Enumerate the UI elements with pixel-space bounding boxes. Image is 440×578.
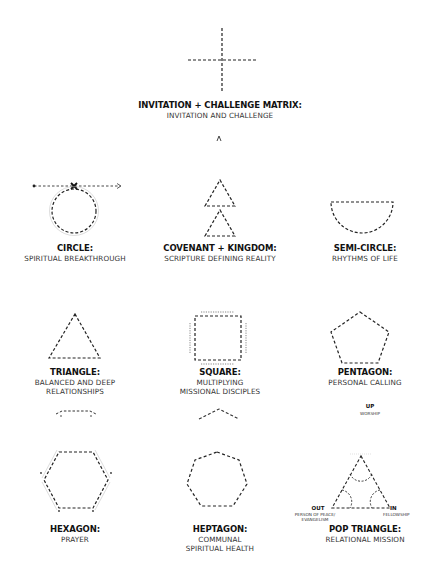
circle-label: CIRCLE: SPIRITUAL BREAKTHROUGH bbox=[0, 243, 150, 263]
heptagon-fragment-icon bbox=[197, 407, 241, 421]
heptagon-subtitle-2: SPIRITUAL HEALTH bbox=[145, 544, 295, 553]
square-title: SQUARE: bbox=[145, 367, 295, 378]
semicircle-subtitle: RHYTHMS OF LIFE bbox=[290, 254, 440, 263]
circle-title: CIRCLE: bbox=[0, 243, 150, 254]
covenant-label: COVENANT + KINGDOM: SCRIPTURE DEFINING R… bbox=[145, 243, 295, 263]
square-subtitle-2: MISSIONAL DISCIPLES bbox=[145, 387, 295, 396]
covenant-kingdom-icon bbox=[203, 178, 237, 242]
circle-icon bbox=[30, 178, 130, 242]
hexagon-label: HEXAGON: PRAYER bbox=[0, 524, 150, 544]
hexagon-title: HEXAGON: bbox=[0, 524, 150, 535]
pop-up-label: UP bbox=[350, 403, 390, 409]
stray-mark-icon bbox=[216, 135, 224, 143]
semicircle-label: SEMI-CIRCLE: RHYTHMS OF LIFE bbox=[290, 243, 440, 263]
covenant-title: COVENANT + KINGDOM: bbox=[145, 243, 295, 254]
pop-subtitle: RELATIONAL MISSION bbox=[290, 535, 440, 544]
pop-up-sublabel: WORSHIP bbox=[345, 411, 395, 416]
square-icon bbox=[188, 310, 248, 366]
pop-label: POP TRIANGLE: RELATIONAL MISSION bbox=[290, 524, 440, 544]
square-subtitle-1: MULTIPLYING bbox=[145, 378, 295, 387]
matrix-subtitle: INVITATION AND CHALLENGE bbox=[120, 111, 320, 120]
triangle-subtitle-2: RELATIONSHIPS bbox=[0, 387, 150, 396]
covenant-subtitle: SCRIPTURE DEFINING REALITY bbox=[145, 254, 295, 263]
semicircle-title: SEMI-CIRCLE: bbox=[290, 243, 440, 254]
square-label: SQUARE: MULTIPLYING MISSIONAL DISCIPLES bbox=[145, 367, 295, 396]
hexagon-fragment-icon bbox=[54, 409, 98, 419]
heptagon-subtitle-1: COMMUNAL bbox=[145, 535, 295, 544]
semi-circle-icon bbox=[329, 200, 395, 236]
hexagon-subtitle: PRAYER bbox=[0, 535, 150, 544]
pentagon-icon bbox=[328, 310, 392, 366]
matrix-cross-icon bbox=[184, 28, 260, 94]
circle-subtitle: SPIRITUAL BREAKTHROUGH bbox=[0, 254, 150, 263]
heptagon-title: HEPTAGON: bbox=[145, 524, 295, 535]
triangle-label: TRIANGLE: BALANCED AND DEEP RELATIONSHIP… bbox=[0, 367, 150, 396]
heptagon-label: HEPTAGON: COMMUNAL SPIRITUAL HEALTH bbox=[145, 524, 295, 553]
pop-in-sublabel: FELLOWSHIP bbox=[383, 512, 423, 517]
heptagon-icon bbox=[184, 450, 250, 508]
matrix-label: INVITATION + CHALLENGE MATRIX: INVITATIO… bbox=[120, 100, 320, 120]
pop-title: POP TRIANGLE: bbox=[290, 524, 440, 535]
matrix-title: INVITATION + CHALLENGE MATRIX: bbox=[120, 100, 320, 111]
pop-out-label: OUT bbox=[303, 505, 333, 511]
pentagon-label: PENTAGON: PERSONAL CALLING bbox=[290, 367, 440, 387]
pop-in-label: IN bbox=[390, 505, 406, 511]
pentagon-subtitle: PERSONAL CALLING bbox=[290, 378, 440, 387]
pop-out-sublabel-2: EVANGELISM bbox=[290, 517, 340, 522]
triangle-subtitle-1: BALANCED AND DEEP bbox=[0, 378, 150, 387]
triangle-icon bbox=[47, 312, 103, 362]
triangle-title: TRIANGLE: bbox=[0, 367, 150, 378]
hexagon-icon bbox=[40, 450, 112, 512]
pop-triangle-icon bbox=[328, 452, 394, 512]
pentagon-title: PENTAGON: bbox=[290, 367, 440, 378]
